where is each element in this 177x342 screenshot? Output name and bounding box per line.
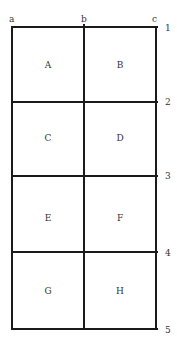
vertical-line-a xyxy=(11,26,13,330)
row-label-1: 1 xyxy=(165,23,171,33)
cell-label-e: E xyxy=(13,213,83,223)
horizontal-line-4 xyxy=(12,251,158,253)
cell-label-g: G xyxy=(13,286,83,296)
row-label-5: 5 xyxy=(165,325,171,335)
cell-label-d: D xyxy=(85,133,155,143)
cell-label-b: B xyxy=(85,60,155,70)
column-label-b: b xyxy=(81,14,87,24)
cell-label-a: A xyxy=(13,60,83,70)
column-label-c: c xyxy=(152,14,157,24)
column-label-a: a xyxy=(9,14,14,24)
horizontal-line-1 xyxy=(12,26,158,28)
cell-label-h: H xyxy=(85,286,155,296)
horizontal-line-5 xyxy=(12,328,158,330)
cell-label-f: F xyxy=(85,213,155,223)
horizontal-line-3 xyxy=(12,175,158,177)
vertical-line-c xyxy=(155,26,157,330)
row-label-3: 3 xyxy=(165,171,171,181)
cell-label-c: C xyxy=(13,133,83,143)
row-label-2: 2 xyxy=(165,97,171,107)
horizontal-line-2 xyxy=(12,101,158,103)
row-label-4: 4 xyxy=(165,248,171,258)
